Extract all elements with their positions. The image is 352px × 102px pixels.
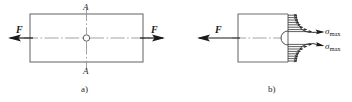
stress-distribution-upper-b [288, 15, 311, 31]
stress-label-lower-b: σmax [325, 41, 340, 52]
force-label-left-b: F [215, 24, 222, 35]
panel-a-group [8, 8, 165, 70]
panel-b-group [197, 14, 325, 63]
force-label-right-a: F [151, 24, 158, 35]
hole-circle-a [83, 35, 89, 41]
force-arrow-left-a [8, 34, 33, 41]
panel-caption-b: b) [268, 84, 276, 94]
hole-arc-b [281, 31, 288, 45]
stress-leader-lower-b [313, 42, 325, 46]
panel-caption-a: a) [81, 84, 88, 94]
stress-leader-upper-b [313, 30, 325, 35]
stress-distribution-lower-b [288, 44, 311, 61]
sigma-subscript-upper: max [329, 30, 340, 37]
section-label-bottom-a: A [83, 66, 89, 76]
figure-canvas [0, 0, 352, 102]
force-label-left-a: F [16, 24, 23, 35]
force-arrow-left-b [197, 34, 240, 41]
figure-container: F F A A a) F σmax σmax b) [0, 0, 352, 102]
sigma-subscript-lower: max [329, 45, 340, 52]
force-arrow-right-a [140, 34, 165, 41]
section-label-top-a: A [83, 2, 89, 12]
stress-label-upper-b: σmax [325, 26, 340, 37]
